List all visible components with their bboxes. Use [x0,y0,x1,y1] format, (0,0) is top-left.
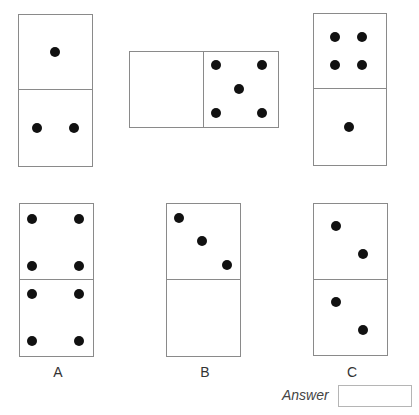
pip [69,123,79,133]
pip [74,214,84,224]
pip [330,60,340,70]
pip [211,60,221,70]
domino-divider [167,279,240,280]
question-domino-1 [18,14,93,167]
pip [222,260,232,270]
domino-divider [19,89,92,90]
domino-divider [203,52,204,127]
pip [174,213,184,223]
domino-divider [314,279,387,280]
pip [32,123,42,133]
pip [331,221,341,231]
pip [357,60,367,70]
pip [358,325,368,335]
pip [234,84,244,94]
pip [257,60,267,70]
pip [27,214,37,224]
pip [74,289,84,299]
pip [74,261,84,271]
pip [211,108,221,118]
pip [50,47,60,57]
pip [358,249,368,259]
pip [330,32,340,42]
pip [331,297,341,307]
domino-divider [20,279,93,280]
pip [357,32,367,42]
option-a-label: A [48,364,68,380]
pip [74,336,84,346]
option-c-label: C [342,364,362,380]
pip [257,108,267,118]
question-domino-3 [313,13,387,166]
pip [27,261,37,271]
pip [197,236,207,246]
option-c-domino[interactable] [313,203,388,356]
pip [27,336,37,346]
pip [344,122,354,132]
option-b-domino[interactable] [166,203,241,357]
option-a-domino[interactable] [19,203,94,357]
answer-label: Answer [282,387,329,403]
pip [27,289,37,299]
answer-input[interactable] [338,385,412,407]
option-b-label: B [195,364,215,380]
domino-divider [314,88,386,89]
